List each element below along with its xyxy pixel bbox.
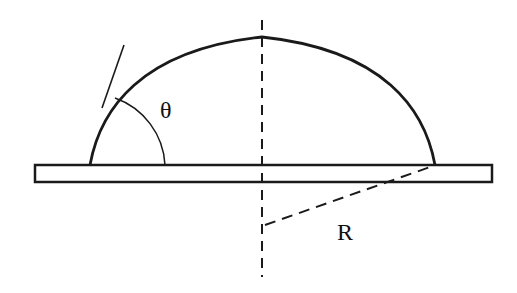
angle-label: θ xyxy=(160,97,172,123)
contact-angle-diagram: θ R xyxy=(0,0,517,293)
substrate-plate xyxy=(35,165,492,182)
radius-label: R xyxy=(337,219,353,245)
contact-angle-arc xyxy=(115,98,165,165)
radius-line xyxy=(265,166,433,225)
